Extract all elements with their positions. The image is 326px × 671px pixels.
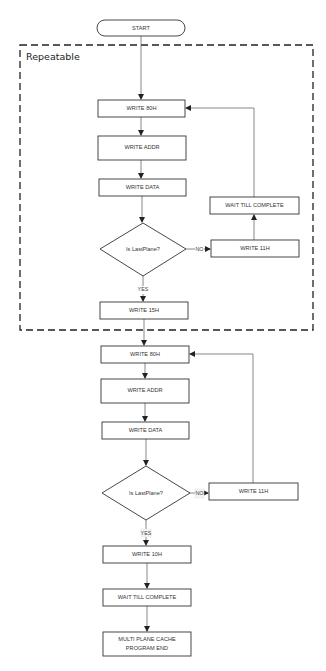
start-label: START	[132, 25, 150, 31]
r-decision-node[interactable]: Is LastPlane?	[100, 223, 186, 276]
write11-label: WRITE 11H	[239, 488, 268, 494]
end-label-line1: MULTI PLANE CACHE	[118, 636, 176, 642]
end-node[interactable]: MULTI PLANE CACHE PROGRAM END	[103, 632, 191, 656]
decision-node[interactable]: Is LastPlane?	[102, 466, 190, 520]
write80-label: WRITE 80H	[130, 351, 160, 357]
r-write11-label: WRITE 11H	[240, 245, 269, 251]
flowchart: Repeatable START WRITE 80H WRITE ADDR WR…	[0, 0, 326, 671]
r-writedata-node[interactable]: WRITE DATA	[99, 179, 186, 196]
r-no-label: NO	[195, 246, 203, 252]
r-writeaddr-node[interactable]: WRITE ADDR	[98, 136, 186, 160]
write10-node[interactable]: WRITE 10H	[103, 546, 191, 563]
r-yes-label: YES	[138, 286, 149, 292]
repeatable-label: Repeatable	[26, 51, 80, 62]
writeaddr-label: WRITE ADDR	[127, 387, 162, 393]
decision-label: Is LastPlane?	[129, 490, 163, 496]
writeaddr-node[interactable]: WRITE ADDR	[101, 379, 189, 403]
start-node[interactable]: START	[97, 20, 185, 36]
yes-label: YES	[141, 530, 152, 536]
r-wait-node[interactable]: WAIT TILL COMPLETE	[210, 197, 299, 214]
r-write80-label: WRITE 80H	[127, 105, 157, 111]
r-write15-node[interactable]: WRITE 15H	[100, 302, 188, 319]
wait-label: WAIT TILL COMPLETE	[118, 594, 177, 600]
writedata-label: WRITE DATA	[129, 427, 163, 433]
r-decision-label: Is LastPlane?	[126, 246, 160, 252]
r-wait-label: WAIT TILL COMPLETE	[225, 202, 284, 208]
wait-node[interactable]: WAIT TILL COMPLETE	[103, 589, 191, 606]
r-writedata-label: WRITE DATA	[126, 184, 160, 190]
r-write15-label: WRITE 15H	[129, 307, 159, 313]
no-label: NO	[195, 490, 203, 496]
write80-node[interactable]: WRITE 80H	[101, 346, 189, 363]
r-writeaddr-label: WRITE ADDR	[124, 144, 159, 150]
write11-node[interactable]: WRITE 11H	[209, 483, 298, 500]
writedata-node[interactable]: WRITE DATA	[102, 422, 189, 439]
write10-label: WRITE 10H	[132, 551, 162, 557]
r-write11-node[interactable]: WRITE 11H	[211, 240, 299, 257]
r-write80-node[interactable]: WRITE 80H	[98, 100, 185, 117]
end-label-line2: PROGRAM END	[126, 645, 168, 651]
